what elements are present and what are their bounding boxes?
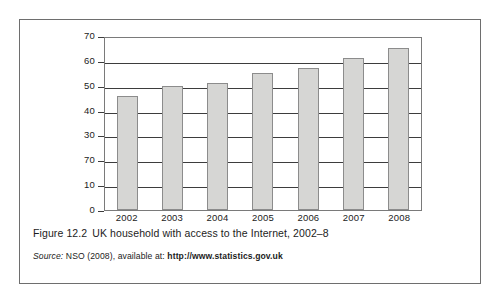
- figure-number: Figure 12.2: [33, 227, 87, 239]
- bar-2002: [117, 96, 138, 210]
- figure-container: 70 60 50 40 30 70: [19, 19, 481, 284]
- bar-2006: [298, 68, 319, 210]
- source-text: NSO (2008), available at:: [66, 251, 165, 261]
- source-url[interactable]: http://www.statistics.gov.uk: [167, 251, 282, 261]
- x-tick-label-2005: 2005: [243, 212, 283, 223]
- bar-chart: 70 60 50 40 30 70: [20, 20, 482, 225]
- x-tick-label-2007: 2007: [334, 212, 374, 223]
- y-tick-label: 70: [84, 154, 95, 165]
- bar-series: [105, 38, 421, 210]
- x-tick-label-2006: 2006: [288, 212, 328, 223]
- x-axis: 2002 2003 2004 2005 2006 2007 2008: [104, 212, 422, 223]
- x-tick-label-2008: 2008: [379, 212, 419, 223]
- y-tick-label: 60: [84, 55, 95, 66]
- y-tick-label: 0: [90, 204, 95, 215]
- figure-caption-text: UK household with access to the Internet…: [92, 227, 329, 239]
- y-tick-label: 30: [84, 129, 95, 140]
- bar-2008: [388, 48, 409, 210]
- y-tick-label: 50: [84, 80, 95, 91]
- plot-area: [104, 37, 422, 211]
- y-tick-label: 70: [84, 30, 95, 41]
- bar-2003: [162, 86, 183, 210]
- y-tick-label: 10: [84, 179, 95, 190]
- x-tick-label-2003: 2003: [152, 212, 192, 223]
- y-axis: 70 60 50 40 30 70: [20, 20, 104, 225]
- x-tick-label-2004: 2004: [198, 212, 238, 223]
- bar-2005: [252, 73, 273, 210]
- bar-2007: [343, 58, 364, 210]
- bar-2004: [207, 83, 228, 210]
- figure-caption: Figure 12.2UK household with access to t…: [33, 227, 469, 239]
- figure-source: Source: NSO (2008), available at: http:/…: [33, 251, 469, 261]
- y-tick-label: 40: [84, 105, 95, 116]
- x-tick-label-2002: 2002: [107, 212, 147, 223]
- source-label: Source:: [33, 251, 63, 261]
